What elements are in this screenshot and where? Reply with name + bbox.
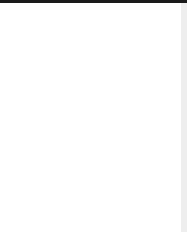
top-border — [0, 0, 187, 3]
page-edge — [181, 3, 187, 232]
